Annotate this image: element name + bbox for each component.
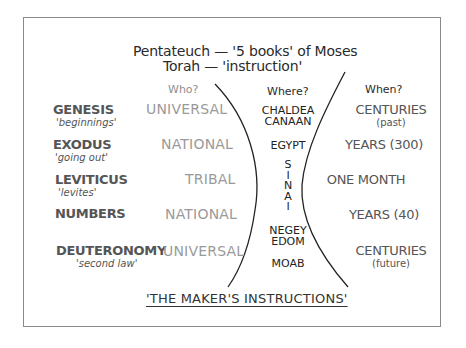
- meaning-genesis: 'beginnings': [56, 117, 116, 128]
- who-numbers: NATIONAL: [165, 206, 237, 222]
- place-moab: MOAB: [264, 258, 312, 269]
- when-numbers: YEARS (40): [334, 207, 434, 222]
- book-genesis: GENESIS: [53, 102, 114, 117]
- column-head-where: Where?: [267, 85, 309, 98]
- place-egypt: EGYPT: [264, 140, 312, 151]
- book-leviticus: LEVITICUS: [55, 172, 128, 187]
- column-head-when: When?: [365, 83, 402, 96]
- place-canaan: CANAAN: [260, 116, 316, 127]
- title-pentateuch: Pentateuch — '5 books' of Moses: [133, 43, 357, 59]
- book-deuteronomy: DEUTERONOMY: [56, 243, 166, 258]
- footer-makers-instructions: 'THE MAKER'S INSTRUCTIONS': [146, 291, 348, 306]
- meaning-deuteronomy: 'second law': [76, 258, 137, 269]
- sinai-letter: I: [282, 202, 294, 213]
- who-exodus: NATIONAL: [161, 136, 233, 152]
- title-torah: Torah — 'instruction': [163, 58, 302, 74]
- book-numbers: NUMBERS: [55, 206, 125, 221]
- meaning-leviticus: 'levites': [58, 187, 96, 198]
- when-sub-deuteronomy: (future): [352, 258, 430, 269]
- place-sinai: S I N A I: [282, 160, 294, 213]
- book-exodus: EXODUS: [53, 137, 111, 152]
- column-head-who: Who?: [168, 83, 198, 96]
- place-edom: EDOM: [264, 236, 312, 247]
- who-genesis: UNIVERSAL: [146, 101, 227, 117]
- when-leviticus: ONE MONTH: [316, 172, 416, 187]
- who-deuteronomy: UNIVERSAL: [163, 243, 244, 259]
- when-genesis: CENTURIES: [352, 102, 430, 117]
- when-deuteronomy: CENTURIES: [352, 243, 430, 258]
- when-sub-genesis: (past): [352, 117, 430, 128]
- meaning-exodus: 'going out': [55, 152, 108, 163]
- who-leviticus: TRIBAL: [185, 171, 236, 187]
- when-exodus: YEARS (300): [332, 137, 436, 152]
